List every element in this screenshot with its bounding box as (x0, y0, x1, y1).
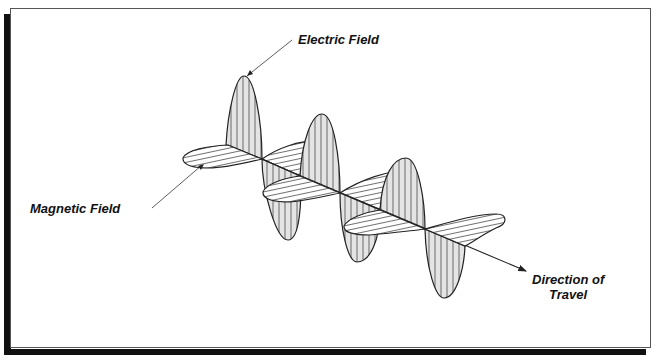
electric-field-leader (247, 40, 292, 76)
direction-of-travel-label: Direction of Travel (532, 272, 604, 302)
direction-label-line2: Travel (532, 287, 604, 302)
direction-label-line1: Direction of (532, 272, 604, 287)
electric-field-wave (226, 76, 465, 298)
em-wave-diagram (0, 0, 660, 362)
electric-field-label: Electric Field (298, 32, 379, 47)
magnetic-field-label: Magnetic Field (30, 201, 120, 216)
electric-field-leader-arrow-icon (247, 70, 253, 76)
magnetic-field-leader (152, 165, 202, 208)
